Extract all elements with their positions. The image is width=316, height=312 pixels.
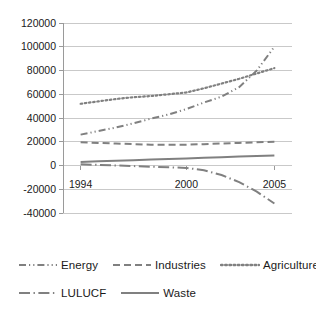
x-axis-tick-label: 2000 [175,178,199,190]
legend-item-waste[interactable]: Waste [120,287,196,299]
legend-item-energy[interactable]: Energy [18,259,98,271]
chart-legend: EnergyIndustriesAgricultureLULUCFWaste [0,248,316,312]
y-axis-tick-label: 100000 [21,40,56,52]
y-axis-tick-label: 60000 [27,88,56,100]
series-line-waste [81,155,275,162]
legend-swatch-energy-icon [18,259,58,271]
legend-item-industries[interactable]: Industries [112,259,206,271]
legend-label: LULUCF [61,287,106,299]
x-axis-tick-label: 2005 [263,178,287,190]
series-line-agriculture [81,68,275,104]
y-axis-tick-label: 120000 [21,17,56,29]
series-line-energy [81,47,275,135]
legend-label: Industries [155,259,206,271]
legend-swatch-waste-icon [120,287,160,299]
legend-swatch-lulucf-icon [18,287,58,299]
legend-row: EnergyIndustriesAgriculture [18,251,316,279]
y-axis-tick-label: 40000 [27,112,56,124]
legend-label: Waste [163,287,196,299]
y-axis-tick-label: 80000 [27,64,56,76]
legend-swatch-agriculture-icon [220,259,260,271]
x-axis-tick-label: 1994 [69,178,93,190]
line-chart: 120000100000800006000040000200000-20000-… [0,0,316,312]
legend-swatch-industries-icon [112,259,152,271]
legend-label: Agriculture [263,259,316,271]
legend-item-agriculture[interactable]: Agriculture [220,259,316,271]
y-axis-tick-label: -20000 [23,183,56,195]
y-axis-tick-label: 20000 [27,135,56,147]
y-axis-tick-label: 0 [50,159,56,171]
y-axis-tick-label: -40000 [23,207,56,219]
legend-row: LULUCFWaste [18,279,316,307]
legend-label: Energy [61,259,98,271]
legend-item-lulucf[interactable]: LULUCF [18,287,106,299]
chart-plot-area: 120000100000800006000040000200000-20000-… [0,0,316,250]
